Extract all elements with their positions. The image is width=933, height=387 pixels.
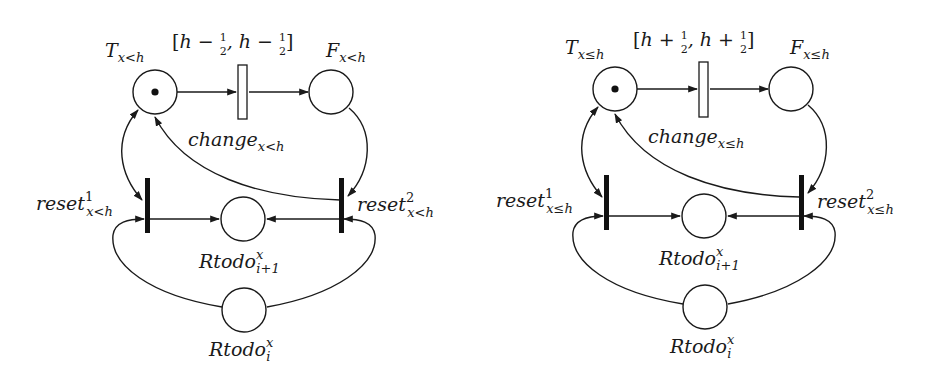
transition-reset1 (604, 175, 609, 230)
arc-T-reset1 (582, 107, 602, 197)
label-interval: [h − 12, h − 12] (172, 30, 293, 58)
label-F: Fx≤h (789, 36, 830, 62)
place-Rtodo-next (221, 197, 265, 241)
petri-net-left: Tx<h [h − 12, h − 12] Fx<h changex<h res… (36, 30, 434, 364)
label-reset1: reset1x≤h (496, 186, 573, 216)
label-F: Fx<h (325, 39, 366, 65)
arc-F-to-reset2 (808, 105, 826, 193)
arc-F-to-reset2 (348, 108, 367, 196)
label-interval: [h + 12, h + 12] (633, 28, 754, 56)
transition-change (238, 65, 247, 119)
transition-reset1 (145, 178, 150, 233)
token-dot (151, 88, 158, 95)
place-Rtodo-cur (683, 285, 727, 329)
token-dot (611, 85, 618, 92)
label-reset2: reset2x<h (357, 190, 434, 220)
label-change: changex<h (188, 128, 284, 154)
label-Rtodo-cur: Rtodoxi (669, 332, 735, 361)
label-change: changex≤h (648, 125, 744, 151)
label-Rtodo-next: Rtodoxi+1 (658, 244, 740, 273)
petri-net-figure: Tx<h [h − 12, h − 12] Fx<h changex<h res… (0, 0, 933, 387)
petri-net-right: Tx≤h [h + 12, h + 12] Fx≤h changex≤h res… (496, 28, 894, 361)
label-Rtodo-cur: Rtodoxi (208, 335, 274, 364)
arc-Rtodo-to-reset2 (267, 219, 375, 307)
label-reset1: reset1x<h (36, 189, 113, 219)
transition-reset2 (339, 178, 344, 233)
label-Rtodo-next: Rtodoxi+1 (198, 247, 280, 276)
transition-reset2 (799, 175, 804, 230)
arc-Rtodo-to-reset2 (728, 216, 835, 304)
label-T: Tx<h (105, 39, 144, 65)
label-T: Tx≤h (565, 36, 604, 62)
arc-T-reset1 (122, 110, 142, 200)
place-F (769, 67, 813, 111)
transition-change (699, 62, 708, 117)
place-F (309, 70, 353, 114)
label-reset2: reset2x≤h (817, 187, 894, 217)
place-Rtodo-next (682, 194, 726, 238)
place-Rtodo-cur (222, 288, 266, 332)
